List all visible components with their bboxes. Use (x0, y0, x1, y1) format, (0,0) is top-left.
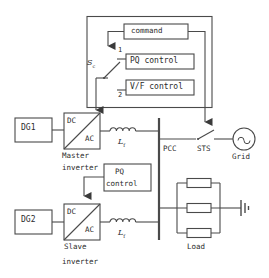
switch-sc-label: Sc (87, 59, 95, 69)
master-inductor-label: Lf (118, 138, 125, 148)
slave-inverter-label-line1: Slave (64, 243, 87, 251)
slave-pq-control-label-line1: PQ (115, 168, 124, 176)
grid-sine-glyph (238, 137, 250, 143)
dg2-label: DG2 (21, 216, 35, 224)
microgrid-master-slave-diagram: command PQ control V/F control 1 2 Sc DG… (0, 0, 269, 278)
pq-control-label: PQ control (130, 57, 178, 65)
slave-inductor-label: Lf (118, 229, 125, 239)
master-inverter-label-line1: Master (62, 152, 89, 160)
switch-sc-subscript: c (92, 63, 95, 69)
wire-pq-to-slave-inverter (84, 177, 104, 196)
pcc-label: PCC (163, 145, 177, 153)
slave-ac-label: AC (85, 226, 94, 234)
switch-pivot-dot (103, 77, 105, 79)
wire-command-to-sts (188, 32, 205, 123)
slave-inverter-label-line2: inverter (62, 258, 98, 266)
switch-position-2-label: 2 (118, 92, 122, 99)
sts-label: STS (197, 145, 211, 153)
master-inductor-coil (110, 128, 136, 131)
dg1-label: DG1 (21, 124, 35, 132)
slave-inductor-coil (110, 219, 136, 222)
load-element-1 (187, 179, 211, 188)
load-element-2 (187, 204, 211, 213)
slave-dc-label: DC (67, 208, 76, 216)
master-dc-label: DC (67, 117, 76, 125)
master-inductor-subscript: f (123, 142, 125, 148)
grid-label: Grid (232, 153, 250, 161)
sts-pivot-dot (197, 138, 199, 140)
slave-inductor-subscript: f (123, 233, 125, 239)
master-inverter-label-line2: inverter (62, 164, 98, 172)
diagram-canvas (0, 0, 269, 278)
load-element-3 (187, 229, 211, 238)
command-label: command (131, 27, 163, 35)
switch-position-1-label: 1 (118, 47, 122, 54)
switch-blade-sc (104, 62, 120, 78)
slave-pq-control-label-line2: control (106, 180, 138, 188)
sts-switch-blade (198, 130, 214, 139)
wire-command-to-switch (108, 32, 124, 47)
load-label: Load (187, 243, 205, 251)
master-ac-label: AC (85, 135, 94, 143)
vf-control-label: V/F control (130, 83, 183, 91)
